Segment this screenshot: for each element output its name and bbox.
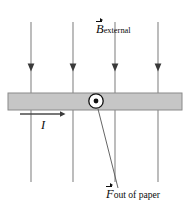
current-symbol-letter: I xyxy=(41,118,45,132)
physics-figure: Bexternal Fout of paper I xyxy=(0,0,189,212)
force-annotation: out of paper xyxy=(114,189,160,200)
field-arrow-head-icon xyxy=(155,64,162,72)
label-current: I xyxy=(41,119,45,132)
figure-canvas xyxy=(0,0,189,212)
f-symbol-letter: F xyxy=(106,187,114,201)
b-symbol-letter: B xyxy=(96,22,104,36)
out-of-page-dot-icon xyxy=(94,99,99,104)
field-arrow-head-icon xyxy=(28,64,35,72)
vector-arrow-tip-icon xyxy=(100,18,103,22)
current-arrow xyxy=(20,111,66,117)
f-vector-symbol: F xyxy=(106,188,114,201)
vector-arrow-tip-icon xyxy=(110,183,113,187)
out-of-page-symbol xyxy=(89,94,103,108)
b-subscript: external xyxy=(104,26,131,35)
b-vector-symbol: B xyxy=(96,23,104,36)
current-arrow-head-icon xyxy=(60,111,66,117)
label-force-out-of-paper: Fout of paper xyxy=(106,188,160,201)
field-arrow-head-icon xyxy=(112,64,119,72)
field-arrow-head-icon xyxy=(70,64,77,72)
field-line-arrowheads xyxy=(28,64,162,72)
label-b-external: Bexternal xyxy=(96,23,131,36)
